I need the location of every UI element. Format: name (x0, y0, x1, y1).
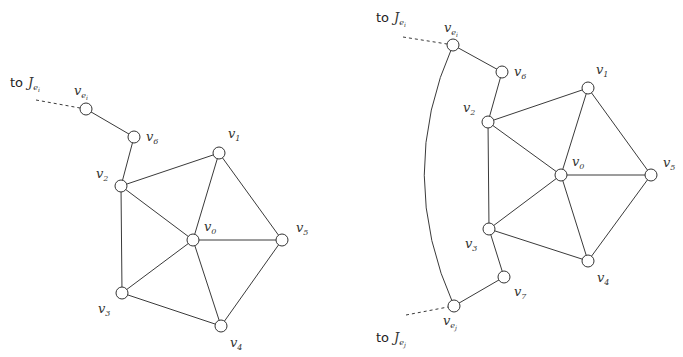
node-v1 (213, 147, 225, 159)
edge-v2-v0 (121, 186, 193, 240)
edge-v0-v4 (193, 240, 221, 326)
label-v2: v2 (463, 100, 475, 117)
label-v7: v7 (514, 284, 527, 301)
node-vej (448, 300, 460, 312)
label-to-J-ej: toJej (376, 330, 406, 349)
edge-v6-v2 (488, 72, 502, 122)
label-v6: v6 (514, 64, 526, 81)
edge-v1-v5 (219, 153, 282, 240)
label-vei: vei (74, 83, 88, 101)
edge-v4-v5 (221, 240, 282, 326)
label-v4: v4 (597, 270, 609, 287)
label-vej: vej (443, 313, 457, 332)
node-vei (447, 39, 459, 51)
edge-v1-v5 (588, 88, 651, 175)
edge-v0-v3 (122, 240, 193, 293)
edge-vei-vej-arc (424, 45, 454, 306)
edge-v3-v4 (122, 293, 221, 326)
label-v1: v1 (228, 126, 240, 143)
edge-v0-v4 (561, 175, 588, 261)
label-v4: v4 (230, 335, 242, 352)
node-v3 (116, 287, 128, 299)
label-v3: v3 (465, 236, 477, 253)
edge-v7-vej (454, 277, 504, 306)
label-v0: v0 (204, 219, 216, 236)
edge-v2-v3 (121, 186, 122, 293)
node-v4 (582, 255, 594, 267)
label-v3: v3 (98, 301, 110, 318)
node-v1 (582, 82, 594, 94)
node-v0 (187, 234, 199, 246)
dashed-edge-to-J-ei (403, 37, 447, 44)
node-v6 (128, 131, 140, 143)
edge-v0-v3 (489, 175, 561, 229)
graph-figure: toJei vei v6 v2 v1 v0 v5 v3 v4 (0, 0, 683, 357)
edge-v3-v4 (489, 229, 588, 261)
edge-v2-v0 (488, 122, 561, 175)
label-v5: v5 (663, 155, 675, 172)
label-v0: v0 (572, 154, 584, 171)
node-v5 (276, 234, 288, 246)
dashed-edge-to-J-ei (36, 100, 80, 108)
node-v0 (555, 169, 567, 181)
edge-v6-v2 (121, 137, 134, 186)
node-vei (80, 103, 92, 115)
edge-v4-v5 (588, 175, 651, 261)
label-to-J-ei: toJei (376, 10, 406, 28)
edge-v2-v3 (488, 122, 489, 229)
label-v5: v5 (296, 220, 308, 237)
label-v2: v2 (96, 166, 108, 183)
edge-v2-v1 (121, 153, 219, 186)
node-v7 (498, 271, 510, 283)
edge-v2-v1 (488, 88, 588, 122)
node-v5 (645, 169, 657, 181)
label-to-J-ei: toJei (10, 75, 40, 93)
dashed-edge-to-J-ej (406, 307, 448, 315)
node-v2 (115, 180, 127, 192)
left-graph: toJei vei v6 v2 v1 v0 v5 v3 v4 (10, 75, 308, 352)
edge-v3-v7 (489, 229, 504, 277)
node-v4 (215, 320, 227, 332)
node-v3 (483, 223, 495, 235)
node-v6 (496, 66, 508, 78)
edge-vei-v6 (453, 45, 502, 72)
label-v6: v6 (146, 129, 158, 146)
node-v2 (482, 116, 494, 128)
label-vei: vei (444, 20, 458, 38)
label-v1: v1 (596, 62, 608, 79)
right-graph: toJei vei v6 v2 v1 v0 v5 v3 v4 v7 vej to… (376, 10, 675, 349)
edge-vei-v6 (86, 109, 134, 137)
